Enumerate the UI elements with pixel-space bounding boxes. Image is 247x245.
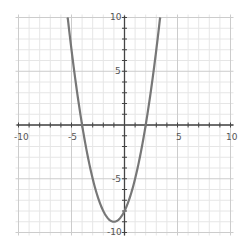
y-tick-label-10: 10	[110, 12, 122, 22]
x-tick-label-neg10: -10	[14, 132, 29, 142]
axes	[17, 16, 234, 236]
x-tick-label-5: 5	[176, 132, 182, 142]
x-tick-label-neg5: -5	[68, 132, 77, 142]
y-tick-label-5: 5	[115, 66, 121, 76]
function-graph: -10 -5 5 10 10 5 -5 -10	[0, 0, 247, 245]
y-tick-label-neg10: -10	[107, 227, 122, 237]
y-tick-label-neg5: -5	[112, 174, 121, 184]
x-tick-label-10: 10	[226, 132, 238, 142]
